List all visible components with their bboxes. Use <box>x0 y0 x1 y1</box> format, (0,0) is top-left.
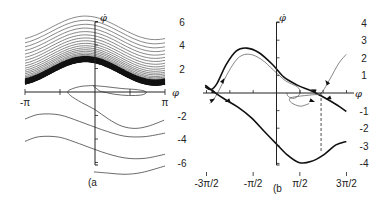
y-tick-label: 4 <box>179 40 185 51</box>
y-tick-label: -3 <box>360 141 369 152</box>
y-axis-name: φ̇ <box>100 12 107 23</box>
arrowhead-icon <box>309 98 316 104</box>
trajectory-curve <box>94 166 165 174</box>
phase-portrait-figure: -ππ642-2-4-6φφ̇(a -3π/2-π/2π/23π/24321-1… <box>0 0 380 207</box>
trajectory-curve <box>93 86 147 96</box>
trajectory-curve <box>289 54 346 106</box>
y-tick-label: -6 <box>178 158 187 169</box>
y-axis-name: φ̇ <box>279 12 286 23</box>
separatrix-curve <box>205 85 346 163</box>
panel-label-a: (a <box>88 177 97 188</box>
flow-arrow-icon <box>309 98 316 104</box>
x-axis-name: φ <box>172 87 179 98</box>
y-tick-label: -2 <box>178 111 187 122</box>
separatrix-curve <box>205 48 346 112</box>
x-tick-label: -π/2 <box>244 178 263 189</box>
panel-label-b: (b <box>273 183 282 194</box>
y-tick-label: 4 <box>361 18 367 29</box>
y-tick-label: 6 <box>179 17 185 28</box>
x-tick-label: -π <box>20 97 30 108</box>
y-tick-label: 2 <box>361 53 367 64</box>
x-tick-label: π <box>162 97 169 108</box>
y-tick-label: -1 <box>360 106 369 117</box>
x-axis-name: φ <box>355 88 362 99</box>
y-tick-label: -4 <box>360 158 369 169</box>
panel-a: -ππ642-2-4-6φφ̇(a <box>20 12 187 188</box>
x-tick-label: 3π/2 <box>336 178 357 189</box>
y-tick-label: 1 <box>361 70 367 81</box>
y-tick-label: -4 <box>178 134 187 145</box>
y-tick-label: -2 <box>360 123 369 134</box>
x-tick-label: -3π/2 <box>194 178 219 189</box>
x-tick-label: π/2 <box>292 178 308 189</box>
y-tick-label: 2 <box>179 64 185 75</box>
y-tick-label: 3 <box>361 35 367 46</box>
panel-b: -3π/2-π/2π/23π/24321-1-2-3-4φφ̇(b <box>194 12 368 194</box>
